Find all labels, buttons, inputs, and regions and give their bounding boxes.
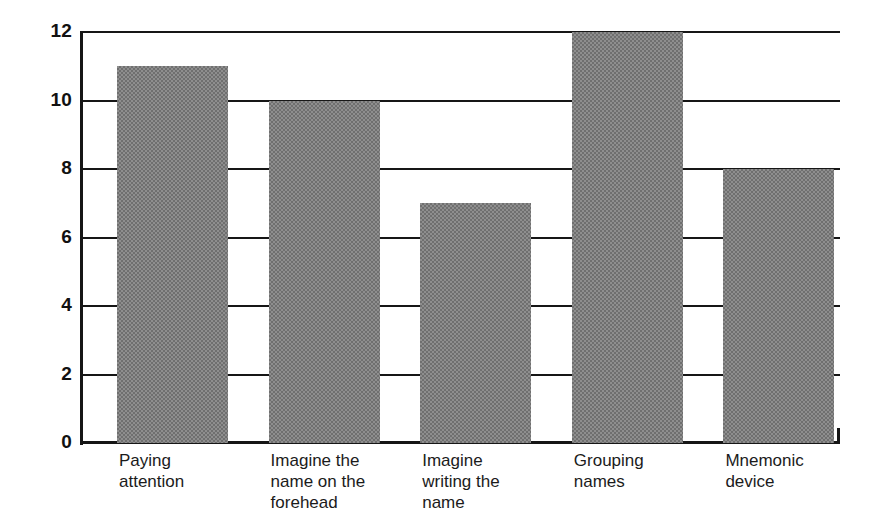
- y-tick-label-12: 12: [12, 20, 72, 42]
- bar-1: [117, 66, 228, 443]
- bar-3: [420, 203, 531, 443]
- y-tick-label-10: 10: [12, 89, 72, 111]
- category-label-1: Paying attention: [119, 450, 184, 492]
- category-label-3: Imagine writing the name: [422, 450, 499, 513]
- x-axis-category-labels: Paying attentionImagine the name on the …: [82, 450, 882, 525]
- y-tick-label-0: 0: [12, 431, 72, 453]
- y-tick-label-2: 2: [12, 363, 72, 385]
- bar-2: [269, 101, 380, 444]
- category-label-5: Mnemonic device: [725, 450, 803, 492]
- bar-chart: 121086420 Paying attentionImagine the na…: [0, 0, 882, 529]
- bar-4: [572, 32, 683, 443]
- y-tick-label-4: 4: [12, 294, 72, 316]
- y-tick-label-8: 8: [12, 157, 72, 179]
- gridline-12: [82, 31, 840, 33]
- y-tick-label-6: 6: [12, 226, 72, 248]
- category-label-2: Imagine the name on the forehead: [271, 450, 366, 513]
- bar-5: [723, 169, 834, 443]
- plot-area: [82, 32, 840, 443]
- category-label-4: Grouping names: [574, 450, 644, 492]
